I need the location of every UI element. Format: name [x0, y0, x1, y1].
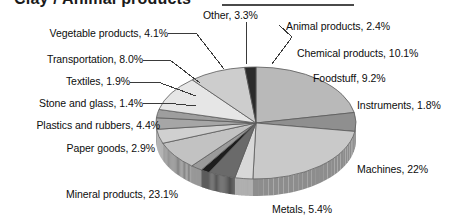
label-other: Other, 3.3% — [203, 9, 258, 21]
label-chemical-products: Chemical products, 10.1% — [297, 47, 418, 59]
label-stone-and-glass: Stone and glass, 1.4% — [0, 97, 143, 109]
label-metals: Metals, 5.4% — [272, 203, 332, 215]
leader-transportation — [143, 60, 200, 83]
label-transportation: Transportation, 8.0% — [0, 53, 143, 65]
label-animal-products: Animal products, 2.4% — [286, 20, 390, 32]
label-mineral-products: Mineral products, 23.1% — [66, 188, 178, 200]
label-plastics-and-rubbers: Plastics and rubbers, 4.4% — [0, 119, 160, 131]
leader-textiles — [130, 82, 196, 96]
label-foodstuff: Foodstuff, 9.2% — [313, 72, 386, 84]
label-paper-goods: Paper goods, 2.9% — [0, 142, 155, 154]
leader-vegetable — [168, 33, 224, 69]
label-machines: Machines, 22% — [357, 163, 428, 175]
pie-chart-figure: Clay / Animal products Vegetable product… — [0, 0, 462, 223]
label-instruments: Instruments, 1.8% — [357, 99, 441, 111]
leader-stone-glass — [143, 103, 196, 106]
label-textiles: Textiles, 1.9% — [0, 75, 130, 87]
label-vegetable-products: Vegetable products, 4.1% — [0, 27, 168, 39]
